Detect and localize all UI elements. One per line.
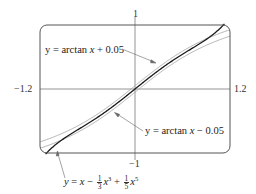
arrow-lower [117, 114, 143, 131]
y-min-label: −1 [129, 159, 140, 169]
denominator: 5 [124, 183, 130, 190]
label-arctan-plus: y = arctan x + 0.05 [45, 44, 124, 55]
eq-text: − [85, 176, 96, 187]
x-min-label: −1.2 [14, 84, 32, 94]
eq-text: = [69, 176, 80, 187]
eq-text: + 0.05 [94, 44, 124, 55]
y-max-label: 1 [133, 9, 138, 19]
denominator: 3 [97, 183, 103, 190]
plot-area [0, 0, 256, 194]
arrowhead-icon [151, 60, 156, 63]
x-max-label: 1.2 [234, 84, 247, 94]
eq-text: + [111, 176, 122, 187]
annotation-arrows [56, 49, 156, 178]
eq-text: y = arctan [45, 44, 90, 55]
eq-text: y = arctan [145, 125, 190, 136]
fraction-one-fifth: 15 [124, 175, 130, 190]
fraction-one-third: 13 [97, 175, 103, 190]
arrow-upper [122, 49, 154, 62]
exponent: 5 [135, 175, 138, 182]
label-arctan-minus: y = arctan x − 0.05 [145, 125, 224, 136]
eq-text: − 0.05 [194, 125, 224, 136]
label-taylor-polynomial: y = x − 13x3 + 15x5 [64, 175, 138, 190]
arrowhead-icon [56, 151, 59, 156]
arrowhead-icon [115, 113, 120, 118]
